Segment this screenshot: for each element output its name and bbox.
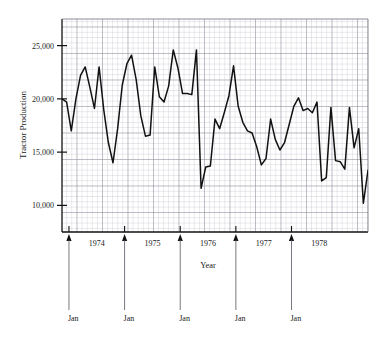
jan-label: Jan <box>179 314 190 323</box>
y-tick-label: 20,000 <box>32 95 54 104</box>
x-tick-label-year: 1978 <box>311 239 327 248</box>
jan-label: Jan <box>291 314 302 323</box>
y-tick-label: 10,000 <box>32 201 54 210</box>
jan-arrow-icon <box>178 234 183 241</box>
x-tick-label-year: 1976 <box>200 239 216 248</box>
jan-label: Jan <box>235 314 246 323</box>
jan-label: Jan <box>68 314 79 323</box>
jan-arrow-icon <box>66 234 71 241</box>
x-tick-label-year: 1974 <box>89 239 105 248</box>
y-tick-label: 25,000 <box>32 42 54 51</box>
x-tick-label-year: 1977 <box>256 239 272 248</box>
jan-arrow-icon <box>122 234 127 241</box>
y-tick-label: 15,000 <box>32 148 54 157</box>
x-tick-label-year: 1975 <box>144 239 160 248</box>
chart-figure: 10,00015,00020,00025,000 197419751976197… <box>0 0 385 339</box>
jan-label: Jan <box>124 314 135 323</box>
jan-arrow-icon <box>233 234 238 241</box>
tractor-production-line-chart: 10,00015,00020,00025,000 197419751976197… <box>0 0 385 339</box>
y-axis-title: Tractor Production <box>18 91 28 159</box>
x-axis-title: Year <box>200 260 216 270</box>
jan-arrow-icon <box>289 234 294 241</box>
